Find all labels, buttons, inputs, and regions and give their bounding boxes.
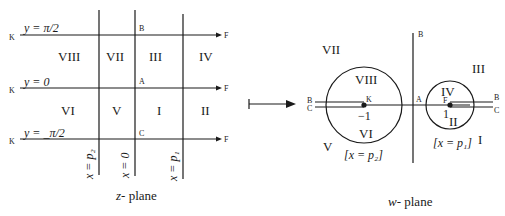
z-point-k-mid: K — [9, 87, 15, 95]
conformal-mapping-figure: K K K F F F y = π/2 y = 0 y = _π/2 B A C… — [0, 0, 505, 216]
w-region-vii: VII — [322, 43, 340, 56]
w-region-v: V — [323, 140, 332, 153]
w-region-iii: III — [472, 62, 485, 75]
z-point-f-mid: F — [224, 85, 228, 93]
w-region-vi: VI — [359, 127, 373, 140]
w-value-minus-one: −1 — [358, 110, 371, 122]
z-point-a: A — [139, 78, 145, 86]
z-point-b: B — [139, 25, 144, 33]
w-region-i: I — [478, 133, 482, 146]
w-region-iv: IV — [441, 85, 455, 98]
z-region-viii: VIII — [58, 50, 80, 63]
z-region-iv: IV — [199, 50, 213, 63]
z-point-f-bottom: F — [224, 136, 228, 144]
w-plane-caption: w- plane — [388, 195, 432, 208]
z-plane-caption: z- plane — [116, 189, 157, 202]
z-point-c: C — [139, 130, 144, 138]
w-point-c-left: C — [307, 105, 312, 113]
w-point-b-axis: B — [418, 31, 423, 39]
diagram-lines — [0, 0, 505, 216]
z-label-y-pi-half: y = π/2 — [24, 22, 59, 34]
z-point-k-top: K — [9, 34, 15, 42]
z-label-x-p2: x = p₂ — [83, 149, 95, 179]
w-region-ii: II — [449, 115, 458, 128]
z-label-x-p1: x = p₁ — [167, 151, 179, 181]
z-region-vi: VI — [61, 104, 75, 117]
z-region-ii: II — [201, 104, 210, 117]
z-region-iii: III — [149, 50, 162, 63]
w-circle-left-label: [x = p₂] — [344, 149, 383, 161]
w-circle-right-label: [x = p₁] — [433, 137, 472, 149]
z-point-f-top: F — [224, 32, 228, 40]
w-point-a: A — [416, 96, 422, 104]
z-label-y-zero: y = 0 — [24, 76, 49, 88]
w-region-viii: VIII — [355, 73, 377, 86]
w-point-c-right: C — [494, 107, 499, 115]
z-label-y-minus-pi-half: y = _π/2 — [24, 127, 65, 139]
z-point-k-bottom: K — [9, 138, 15, 146]
z-region-v: V — [112, 104, 121, 117]
z-region-vii: VII — [106, 50, 124, 63]
z-label-x-0: x = 0 — [119, 153, 131, 178]
w-point-k: K — [366, 96, 372, 104]
z-region-i: I — [157, 104, 161, 117]
w-point-b-right: B — [494, 94, 499, 102]
